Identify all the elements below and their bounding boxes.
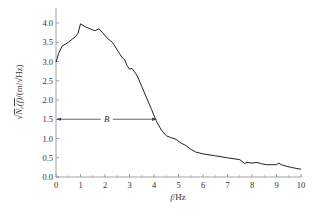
x-tick-label: 10 — [297, 180, 306, 190]
x-tick-label: 3 — [127, 180, 131, 190]
y-tick-label: 3.0 — [42, 57, 53, 67]
bandwidth-label: B — [104, 114, 110, 124]
y-tick-label: 0.5 — [42, 153, 53, 163]
svg-text:√Nr(f)/(m/√Hz): √Nr(f)/(m/√Hz) — [14, 64, 25, 119]
x-tick-label: 8 — [250, 180, 254, 190]
x-tick-label: 2 — [103, 180, 107, 190]
y-tick-label: 1.0 — [42, 134, 53, 144]
x-tick-label: 4 — [152, 180, 157, 190]
y-tick-label: 4.0 — [42, 18, 53, 28]
y-tick-label: 3.5 — [42, 37, 53, 47]
y-tick-label: 2.5 — [42, 76, 53, 86]
x-tick-label: 6 — [201, 180, 205, 190]
data-line — [56, 24, 301, 170]
y-ticks: 0.00.51.01.52.02.53.03.54.0 — [42, 18, 59, 182]
x-tick-label: 0 — [54, 180, 58, 190]
y-tick-label: 0.0 — [42, 172, 53, 182]
y-tick-label: 1.5 — [42, 114, 53, 124]
chart: 012345678910 0.00.51.01.52.02.53.03.54.0… — [0, 0, 320, 216]
x-tick-label: 7 — [225, 180, 229, 190]
x-ticks: 012345678910 — [54, 174, 305, 190]
y-axis-title: √Nr(f)/(m/√Hz) — [14, 64, 25, 119]
y-tick-label: 2.0 — [42, 95, 53, 105]
x-tick-label: 1 — [78, 180, 82, 190]
bandwidth-annotation: B — [57, 114, 156, 124]
axes: 012345678910 0.00.51.01.52.02.53.03.54.0 — [42, 8, 305, 190]
x-tick-label: 5 — [176, 180, 180, 190]
x-tick-label: 9 — [274, 180, 278, 190]
x-axis-title: f/Hz — [170, 192, 186, 202]
